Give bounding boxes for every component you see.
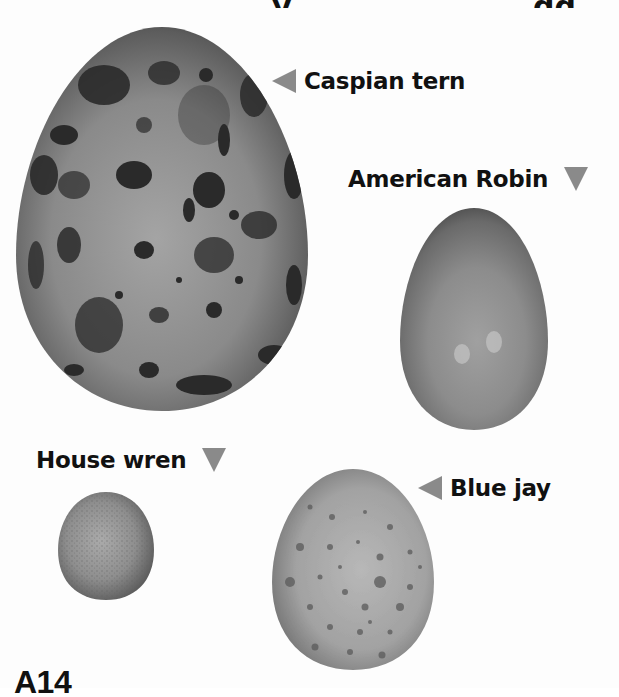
label-caspian-tern-text: Caspian tern <box>304 68 465 94</box>
label-american-robin-text: American Robin <box>348 166 548 192</box>
egg-american-robin-image <box>398 206 550 432</box>
egg-blue-jay-image <box>270 467 436 672</box>
label-house-wren-text: House wren <box>36 447 186 473</box>
triangle-down-marker-icon <box>564 167 588 191</box>
label-blue-jay: Blue jay <box>418 475 551 501</box>
egg-house-wren-image <box>56 490 156 602</box>
page-number: A14 <box>14 664 71 697</box>
label-american-robin: American Robin <box>348 166 588 192</box>
triangle-left-marker-icon <box>272 69 296 93</box>
triangle-left-marker-icon <box>418 476 442 500</box>
label-house-wren: House wren <box>36 447 226 473</box>
label-caspian-tern: Caspian tern <box>272 68 465 94</box>
egg-caspian-tern-image <box>14 25 310 413</box>
triangle-down-marker-icon <box>202 448 226 472</box>
title-fragment-y: y <box>272 0 292 8</box>
label-blue-jay-text: Blue jay <box>450 475 551 501</box>
title-fragment-gg: gg <box>533 0 576 8</box>
cropped-title: y gg <box>0 0 619 8</box>
